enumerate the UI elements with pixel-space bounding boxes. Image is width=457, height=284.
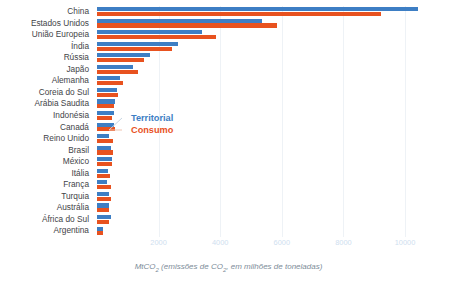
legend: Territorial Consumo <box>131 113 211 136</box>
bar-consumo <box>97 104 114 108</box>
bar-territorial <box>97 134 109 138</box>
category-label: Rússia <box>64 52 89 64</box>
bar-consumo <box>97 208 109 212</box>
bar-row <box>97 29 442 41</box>
bar-territorial <box>97 88 117 92</box>
legend-item-consumo: Consumo <box>131 125 211 137</box>
category-label: Canadá <box>60 122 89 134</box>
bar-consumo <box>97 70 138 74</box>
bar-territorial <box>97 227 103 231</box>
bar-consumo <box>97 139 113 143</box>
bar-row <box>97 75 442 87</box>
bar-row <box>97 156 442 168</box>
bar-consumo <box>97 174 110 178</box>
category-label: Índia <box>71 41 89 53</box>
caption-suffix: , em milhões de toneladas) <box>226 262 322 271</box>
bar-territorial <box>97 42 178 46</box>
category-label: Estados Unidos <box>31 18 89 30</box>
bar-consumo <box>97 162 112 166</box>
bar-consumo <box>97 47 172 51</box>
bar-consumo <box>97 150 113 154</box>
bar-territorial <box>97 180 107 184</box>
bar-consumo <box>97 23 277 27</box>
bar-territorial <box>97 53 150 57</box>
bar-territorial <box>97 169 108 173</box>
caption-middle: (emissões de CO <box>159 262 223 271</box>
bar-consumo <box>97 231 103 235</box>
category-label: União Europeia <box>32 29 89 41</box>
bar-row <box>97 168 442 180</box>
bar-row <box>97 145 442 157</box>
category-label: Brasil <box>68 145 89 157</box>
bar-territorial <box>97 123 114 127</box>
category-label: México <box>63 156 89 168</box>
bar-consumo <box>97 185 111 189</box>
bar-row <box>97 87 442 99</box>
axis-caption: MtCO2 (emissões de CO2, em milhões de to… <box>0 262 457 273</box>
category-label: China <box>67 6 89 18</box>
value-tick-6000: 6000 <box>274 238 290 247</box>
bar-territorial <box>97 203 109 207</box>
category-label: Arábia Saudita <box>35 98 89 110</box>
bar-territorial <box>97 65 133 69</box>
bar-row <box>97 41 442 53</box>
category-label: Austrália <box>57 202 89 214</box>
bar-consumo <box>97 93 118 97</box>
bar-chart: ChinaEstados UnidosUnião EuropeiaÍndiaRú… <box>0 0 457 284</box>
category-label: Itália <box>71 168 89 180</box>
value-tick-2000: 2000 <box>150 238 166 247</box>
bar-territorial <box>97 19 262 23</box>
category-axis-labels: ChinaEstados UnidosUnião EuropeiaÍndiaRú… <box>0 6 93 237</box>
bar-consumo <box>97 116 112 120</box>
bar-row <box>97 225 442 237</box>
bar-consumo <box>97 127 115 131</box>
category-label: Turquia <box>61 191 89 203</box>
value-tick-4000: 4000 <box>212 238 228 247</box>
bar-row <box>97 214 442 226</box>
category-label: Indonésia <box>53 110 89 122</box>
value-tick-8000: 8000 <box>335 238 351 247</box>
bar-row <box>97 52 442 64</box>
bar-consumo <box>97 81 123 85</box>
bar-territorial <box>97 111 114 115</box>
bar-row <box>97 18 442 30</box>
category-label: Japão <box>66 64 89 76</box>
category-label: África do Sul <box>42 214 89 226</box>
bar-consumo <box>97 12 381 16</box>
category-label: Argentina <box>53 225 89 237</box>
bar-territorial <box>97 215 111 219</box>
bar-consumo <box>97 35 216 39</box>
bar-consumo <box>97 58 144 62</box>
bar-row <box>97 202 442 214</box>
bar-consumo <box>97 197 111 201</box>
bar-row <box>97 6 442 18</box>
category-label: França <box>63 179 89 191</box>
category-label: Alemanha <box>52 75 89 87</box>
bar-consumo <box>97 220 109 224</box>
bar-row <box>97 98 442 110</box>
caption-prefix: MtCO <box>135 262 156 271</box>
value-axis-ticks: 200040006000800010000 <box>97 238 442 252</box>
legend-item-territorial: Territorial <box>131 113 211 125</box>
bar-row <box>97 179 442 191</box>
category-label: Coreia do Sul <box>39 87 89 99</box>
bar-territorial <box>97 157 112 161</box>
bar-territorial <box>97 99 115 103</box>
bar-territorial <box>97 7 418 11</box>
value-tick-10000: 10000 <box>395 238 416 247</box>
bar-territorial <box>97 76 120 80</box>
bar-territorial <box>97 30 202 34</box>
bar-territorial <box>97 146 111 150</box>
bar-territorial <box>97 192 109 196</box>
category-label: Reino Unido <box>43 133 89 145</box>
bar-row <box>97 64 442 76</box>
bar-row <box>97 191 442 203</box>
